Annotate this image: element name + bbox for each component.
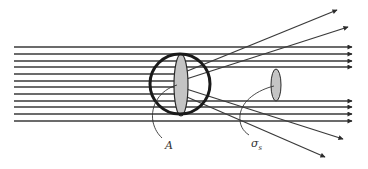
label-a: A [164,139,173,152]
scattering-diagram: A σs [0,0,368,169]
label-sigma-subscript: s [259,144,263,152]
scattered-rays [180,10,348,157]
label-sigma-s: σs [251,137,263,152]
scattered-ray [180,87,343,139]
scattering-cross-section-ellipse [271,69,281,101]
incident-rays [14,74,182,94]
